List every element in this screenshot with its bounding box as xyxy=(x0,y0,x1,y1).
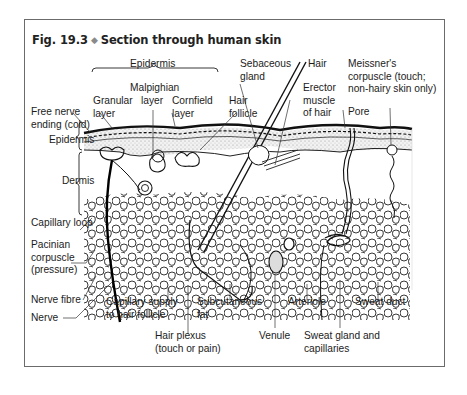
label-epidermis-top: Epidermis xyxy=(130,58,175,71)
label-pacinian-corpuscle: Pacinian corpuscle (pressure) xyxy=(31,239,77,277)
label-sweat-duct: Sweat duct xyxy=(355,296,405,309)
label-hair-follicle: Hair follicle xyxy=(229,95,257,120)
label-capillary-supply: Capillary supply to hair follicle xyxy=(106,296,178,321)
label-free-nerve-ending: Free nerve ending (cold) xyxy=(31,106,90,131)
meissner-corpuscle xyxy=(387,145,397,155)
label-epidermis-left: Epidermis xyxy=(49,134,94,147)
epidermis-stipple xyxy=(84,127,412,155)
label-hair: Hair xyxy=(308,58,327,71)
sebaceous-gland xyxy=(248,145,269,165)
label-venule: Venule xyxy=(259,330,290,343)
venule xyxy=(269,251,283,273)
label-arteriole: Arteriole xyxy=(288,296,326,309)
label-meissner-corpuscle: Meissner's corpuscle (touch; non-hairy s… xyxy=(348,58,436,96)
label-sweat-gland: Sweat gland and capillaries xyxy=(304,330,380,355)
label-capillary-loop: Capillary loop xyxy=(31,217,93,230)
label-granular: Granular layer xyxy=(93,95,133,120)
label-hair-plexus: Hair plexus (touch or pain) xyxy=(155,330,221,355)
label-sebaceous-gland: Sebaceous gland xyxy=(240,58,291,83)
label-nerve-fibre: Nerve fibre xyxy=(31,294,81,307)
label-cornfield: Cornfield layer xyxy=(172,95,213,120)
pacinian-corpuscle xyxy=(138,181,152,195)
label-dermis: Dermis xyxy=(62,175,94,188)
label-pore: Pore xyxy=(348,106,370,119)
label-nerve: Nerve xyxy=(31,312,58,325)
label-subcutaneous-fat: Subcutaneous fat xyxy=(197,296,262,321)
label-erector-muscle: Erector muscle of hair xyxy=(303,82,336,120)
